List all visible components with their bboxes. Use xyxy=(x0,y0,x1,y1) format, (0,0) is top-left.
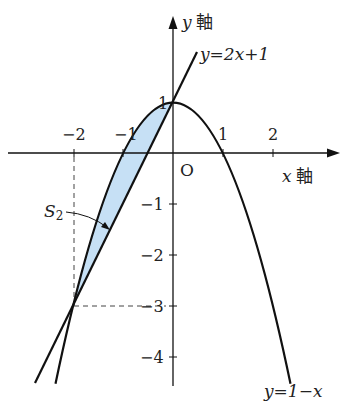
x-axis-label: x軸 xyxy=(282,166,313,186)
y-axis-label: y軸 xyxy=(181,12,213,32)
x-axis-arrow-icon xyxy=(327,149,340,158)
y-axis-arrow-icon xyxy=(169,16,178,29)
parabola-label: y=1−x xyxy=(263,381,323,401)
x-tick-label-1: 1 xyxy=(218,125,228,144)
region-label-s2: S2 xyxy=(44,201,63,223)
y-tick-label-1: 1 xyxy=(158,94,168,113)
line-label: y=2x+1 xyxy=(199,44,269,64)
y-tick-label-minus3: −3 xyxy=(140,297,164,316)
y-tick-label-minus2: −2 xyxy=(140,246,164,265)
y-tick-label-minus4: −4 xyxy=(140,348,164,367)
x-tick-label-2: 2 xyxy=(268,125,278,144)
origin-label: O xyxy=(180,160,194,180)
x-tick-label-minus1: −1 xyxy=(114,125,138,144)
graph-figure: y軸 y=2x+1 x軸 O y=1−x S2 −2 −1 1 2 1 −1 −… xyxy=(0,0,343,405)
y-tick-label-minus1: −1 xyxy=(140,195,164,214)
x-tick-label-minus2: −2 xyxy=(62,125,86,144)
